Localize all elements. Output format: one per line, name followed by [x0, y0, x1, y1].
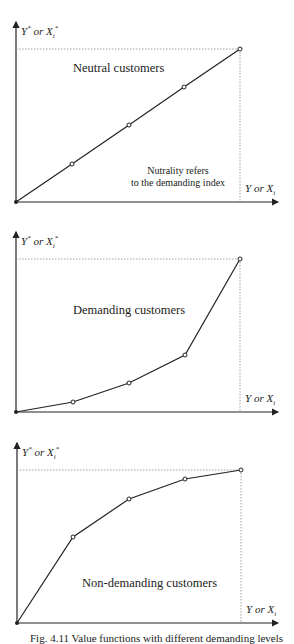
value-curve: [16, 259, 240, 412]
chart-demanding: [14, 232, 278, 414]
x-axis-label: Y or Xi: [245, 182, 275, 197]
chart-title: Demanding customers: [73, 303, 185, 318]
y-axis-label: Y* or Xi*: [21, 24, 58, 40]
value-curve: [17, 470, 241, 623]
y-axis-label: Y* or Xi*: [22, 445, 59, 461]
chart-title: Non-demanding customers: [82, 576, 217, 591]
y-axis-label: Y* or Xi*: [21, 234, 58, 250]
x-axis-label: Y or Xi: [245, 392, 275, 407]
figure-caption: Fig. 4.11 Value functions with different…: [30, 632, 283, 644]
chart-title: Neutral customers: [73, 61, 164, 76]
chart-annotation: Nutrality refersto the demanding index: [118, 165, 238, 189]
x-axis-label: Y or Xi: [246, 603, 276, 618]
chart-non-demanding: [15, 443, 278, 625]
